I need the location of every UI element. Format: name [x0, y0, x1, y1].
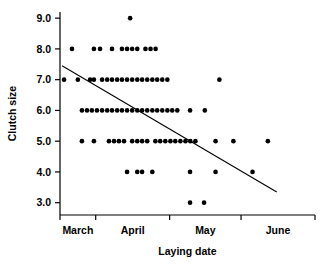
data-point — [105, 77, 110, 82]
data-point — [90, 108, 95, 113]
data-point — [92, 77, 97, 82]
data-point — [203, 108, 208, 113]
data-point — [140, 139, 145, 144]
x-tick-label-may: May — [195, 224, 216, 236]
x-tick-label-march: March — [62, 224, 93, 236]
data-point — [110, 77, 115, 82]
data-point — [188, 139, 193, 144]
data-point — [175, 108, 180, 113]
data-point — [110, 108, 115, 113]
data-point — [153, 139, 158, 144]
trendline-layer — [62, 66, 277, 192]
data-point — [115, 108, 120, 113]
data-point — [168, 139, 173, 144]
data-point — [150, 108, 155, 113]
data-point — [165, 77, 170, 82]
data-point — [92, 139, 97, 144]
data-point — [125, 170, 130, 175]
data-point — [143, 47, 148, 52]
data-point — [130, 108, 135, 113]
data-point — [130, 139, 135, 144]
data-point — [231, 139, 236, 144]
data-point — [125, 77, 130, 82]
data-point — [183, 139, 188, 144]
data-point — [117, 139, 122, 144]
y-tick-label: 4.0 — [36, 166, 51, 178]
data-point — [95, 108, 100, 113]
data-point — [80, 108, 85, 113]
data-point — [155, 77, 160, 82]
data-point — [98, 47, 103, 52]
data-point — [62, 77, 67, 82]
data-point — [125, 47, 130, 52]
data-point — [217, 77, 222, 82]
data-point — [173, 139, 178, 144]
y-tick-label: 6.0 — [36, 104, 51, 116]
data-point — [155, 108, 160, 113]
data-point — [135, 108, 140, 113]
data-point — [160, 108, 165, 113]
data-point — [135, 139, 140, 144]
data-point — [163, 139, 168, 144]
data-point — [125, 108, 130, 113]
data-point — [130, 77, 135, 82]
data-point — [120, 77, 125, 82]
data-point — [266, 139, 271, 144]
data-point — [100, 108, 105, 113]
data-point — [105, 108, 110, 113]
data-point — [135, 47, 140, 52]
data-point — [112, 139, 117, 144]
data-point — [135, 170, 140, 175]
data-point — [80, 139, 85, 144]
y-tick-label: 7.0 — [36, 73, 51, 85]
data-point — [76, 77, 81, 82]
data-point — [145, 77, 150, 82]
data-point — [150, 170, 155, 175]
scatter-plot-svg: 9.08.07.06.05.04.03.0MarchAprilMayJuneLa… — [0, 0, 329, 267]
regression-trendline — [62, 66, 277, 192]
data-point — [150, 77, 155, 82]
axes-layer — [55, 12, 315, 220]
data-point — [178, 139, 183, 144]
data-point — [188, 200, 193, 205]
y-tick-label: 5.0 — [36, 135, 51, 147]
data-point — [202, 200, 207, 205]
data-point — [120, 47, 125, 52]
data-point — [70, 47, 75, 52]
data-point — [128, 16, 133, 21]
data-point — [193, 139, 198, 144]
data-point — [135, 77, 140, 82]
data-point — [148, 47, 153, 52]
chart-figure: 9.08.07.06.05.04.03.0MarchAprilMayJuneLa… — [0, 0, 329, 267]
y-axis-title: Clutch size — [6, 86, 18, 142]
data-point — [115, 77, 120, 82]
x-axis-title: Laying date — [158, 245, 217, 257]
data-point — [165, 108, 170, 113]
data-point — [100, 77, 105, 82]
data-point — [122, 139, 127, 144]
data-point — [110, 47, 115, 52]
data-point — [188, 108, 193, 113]
data-point — [160, 77, 165, 82]
data-point — [92, 47, 97, 52]
y-tick-label: 9.0 — [36, 12, 51, 24]
data-point — [107, 139, 112, 144]
data-point — [158, 139, 163, 144]
x-tick-label-april: April — [121, 224, 145, 236]
x-tick-label-june: June — [266, 224, 291, 236]
data-points-layer — [62, 16, 270, 205]
data-point — [120, 108, 125, 113]
data-point — [213, 139, 218, 144]
data-point — [250, 170, 255, 175]
data-point — [85, 108, 90, 113]
data-point — [188, 170, 193, 175]
data-point — [145, 139, 150, 144]
data-point — [140, 108, 145, 113]
data-point — [153, 47, 158, 52]
data-point — [213, 170, 218, 175]
data-point — [145, 108, 150, 113]
data-point — [170, 108, 175, 113]
data-point — [130, 47, 135, 52]
data-point — [140, 170, 145, 175]
data-point — [140, 77, 145, 82]
